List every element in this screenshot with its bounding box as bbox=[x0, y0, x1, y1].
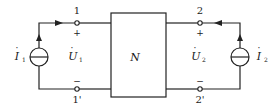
port-2-label: 2 bbox=[197, 5, 203, 16]
port-1-prime-label: 1' bbox=[72, 94, 81, 105]
wire-left-bottom bbox=[39, 66, 75, 89]
terminal-2 bbox=[198, 21, 202, 25]
port-2-prime-label: 2' bbox=[195, 94, 204, 105]
svg-text:U: U bbox=[68, 50, 78, 63]
source-i2-label: · I 2 bbox=[256, 43, 268, 63]
port-1-minus: − bbox=[73, 76, 81, 86]
terminal-1-prime bbox=[75, 87, 79, 91]
svg-text:2: 2 bbox=[264, 56, 268, 63]
svg-text:I: I bbox=[14, 50, 20, 63]
svg-text:2: 2 bbox=[202, 56, 206, 63]
port-2-plus: + bbox=[196, 28, 204, 38]
svg-text:1: 1 bbox=[79, 56, 83, 63]
terminal-2-prime bbox=[198, 87, 202, 91]
arrow-up-right-icon bbox=[237, 34, 243, 41]
network-label: N bbox=[129, 51, 140, 64]
arrow-left-icon bbox=[214, 20, 222, 26]
arrow-right-icon bbox=[55, 20, 63, 26]
current-source-left-icon bbox=[30, 48, 48, 66]
svg-text:1: 1 bbox=[22, 56, 26, 63]
voltage-u1-label: · U 1 bbox=[68, 43, 82, 63]
port-1-label: 1 bbox=[74, 5, 80, 16]
wire-right-bottom bbox=[202, 66, 240, 89]
svg-text:I: I bbox=[256, 50, 262, 63]
port-1-plus: + bbox=[73, 28, 81, 38]
arrow-up-left-icon bbox=[36, 34, 42, 41]
svg-text:U: U bbox=[191, 50, 201, 63]
two-port-circuit: 1 1' 2 2' + − + − N · I 1 · I 2 · U 1 · … bbox=[0, 0, 272, 107]
voltage-u2-label: · U 2 bbox=[191, 43, 206, 63]
current-source-right-icon bbox=[231, 48, 249, 66]
source-i1-label: · I 1 bbox=[14, 43, 26, 63]
terminal-1 bbox=[75, 21, 79, 25]
wire-right-top bbox=[202, 23, 240, 48]
port-2-minus: − bbox=[196, 76, 204, 86]
